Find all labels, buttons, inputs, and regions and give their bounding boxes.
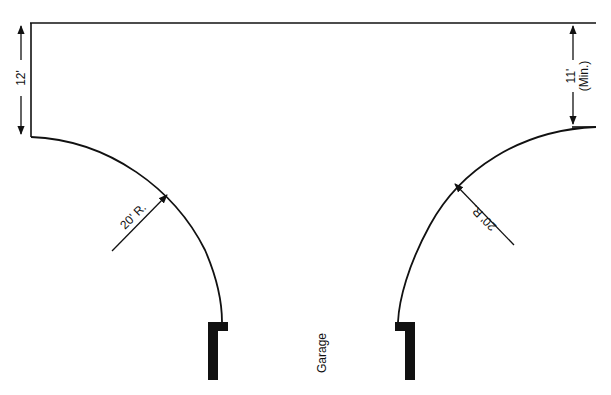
- right-garage-post: [395, 322, 415, 380]
- left-width-label: 12': [14, 70, 28, 86]
- right-width-label: 11': [564, 69, 578, 84]
- left-width-dimension: 12': [14, 26, 28, 134]
- right-radius-label: 20' R.: [467, 202, 499, 234]
- driveway-diagram: 12' 20' R. 11' (Min.) 20' R. Garage: [0, 0, 611, 395]
- right-width-dimension: 11' (Min.): [564, 26, 591, 124]
- left-garage-post: [208, 322, 228, 380]
- right-width-note: (Min.): [577, 61, 591, 92]
- left-radius-label: 20' R.: [117, 200, 149, 232]
- garage-label: Garage: [315, 333, 329, 373]
